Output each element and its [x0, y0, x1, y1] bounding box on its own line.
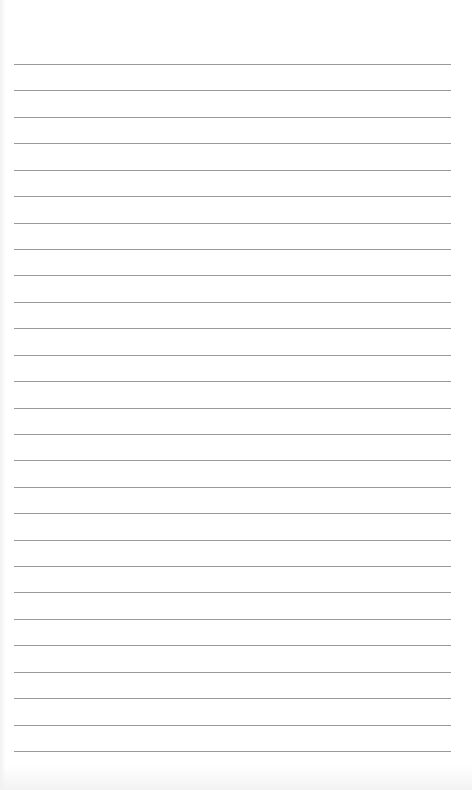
ruled-line: [14, 196, 451, 197]
ruled-line: [14, 725, 451, 726]
ruled-line: [14, 249, 451, 250]
ruled-line: [14, 672, 451, 673]
ruled-line: [14, 540, 451, 541]
ruled-line: [14, 513, 451, 514]
ruled-line: [14, 170, 451, 171]
ruled-line: [14, 460, 451, 461]
ruled-line: [14, 223, 451, 224]
ruled-line: [14, 434, 451, 435]
ruled-line: [14, 328, 451, 329]
paper-edge-shadow: [0, 0, 6, 790]
ruled-line: [14, 143, 451, 144]
ruled-line: [14, 645, 451, 646]
ruled-line: [14, 408, 451, 409]
ruled-line: [14, 698, 451, 699]
ruled-line: [14, 487, 451, 488]
ruled-line: [14, 751, 451, 752]
ruled-line: [14, 275, 451, 276]
ruled-line: [14, 355, 451, 356]
ruled-line: [14, 381, 451, 382]
ruled-line: [14, 64, 451, 65]
ruled-line: [14, 619, 451, 620]
ruled-line: [14, 592, 451, 593]
ruled-line: [14, 302, 451, 303]
ruled-line: [14, 117, 451, 118]
ruled-line: [14, 566, 451, 567]
ruled-line: [14, 90, 451, 91]
lined-paper-sheet: [0, 0, 472, 790]
